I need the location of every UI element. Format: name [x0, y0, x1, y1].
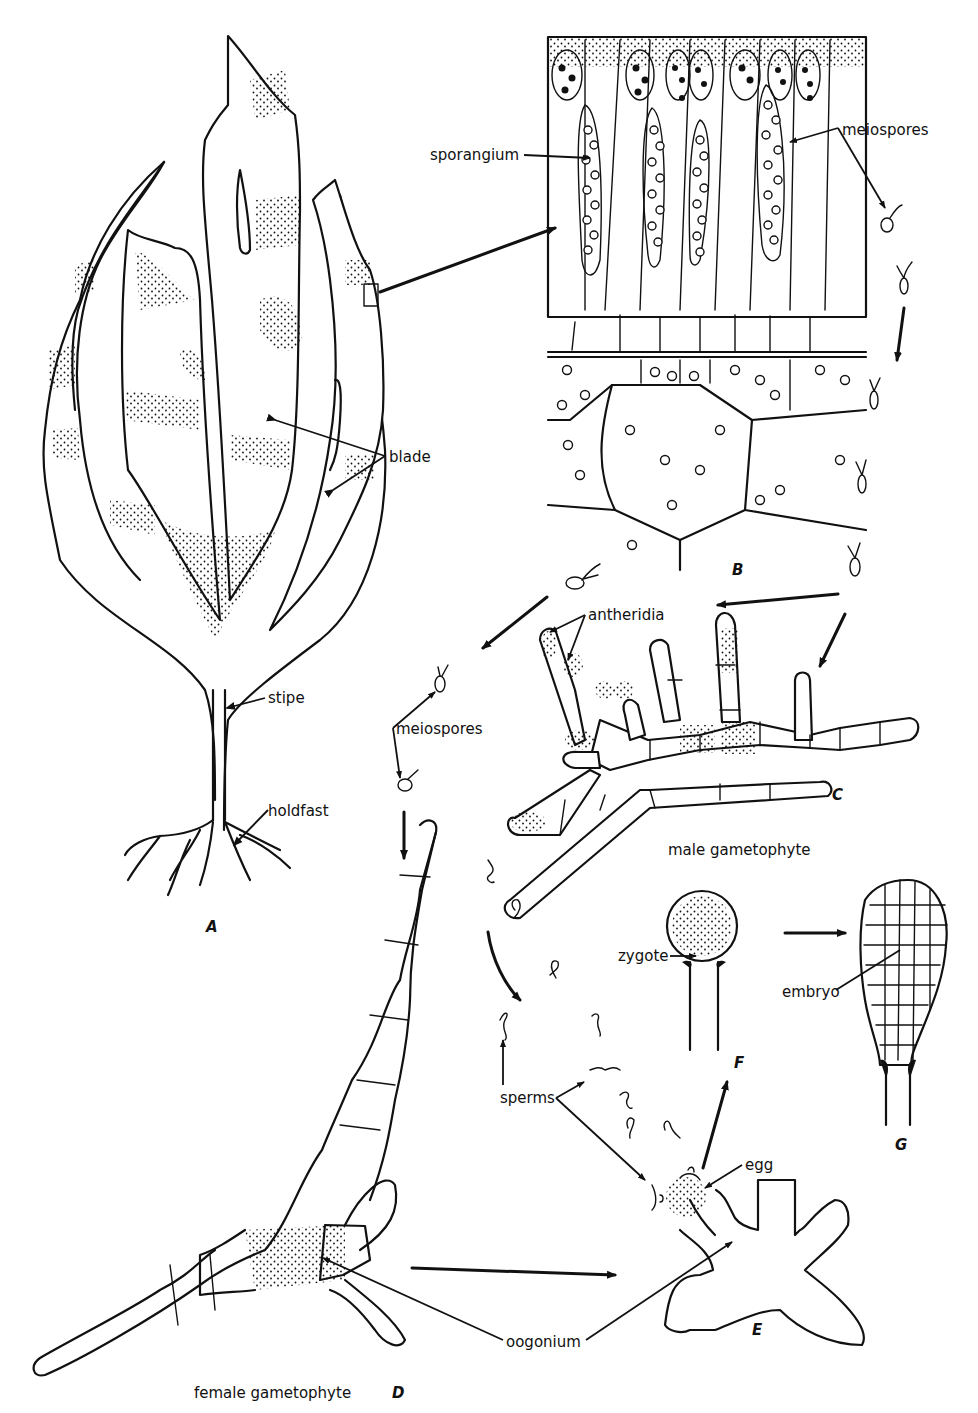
female-gametophyte-label: female gametophyte	[194, 1384, 351, 1402]
oogonium-panel-e: E	[652, 1167, 864, 1345]
stipe-label: stipe	[268, 689, 305, 707]
kelp-life-cycle-diagram: blade stipe holdfast A	[0, 0, 978, 1413]
arrow-sperm-drift	[488, 932, 520, 1000]
labels-meiospores-mid: meiospores	[393, 692, 483, 858]
arrow-d-to-e	[412, 1268, 615, 1275]
male-gametophyte-label: male gametophyte	[668, 841, 811, 859]
arrow-to-antheridia	[718, 594, 838, 605]
sporophyte-panel-a	[43, 36, 385, 895]
meiospores-label-top: meiospores	[842, 121, 929, 139]
meiospores-label-mid: meiospores	[396, 720, 483, 738]
arrow-a-to-b	[380, 228, 555, 292]
holdfast-label: holdfast	[268, 802, 329, 820]
egg-label: egg	[745, 1156, 773, 1174]
arrow-to-male	[820, 614, 845, 666]
sperms-label: sperms	[500, 1089, 555, 1107]
labels-panel-g: embryo	[782, 950, 900, 1001]
antheridia-label: antheridia	[588, 606, 665, 624]
female-gametophyte-panel-d: D	[34, 821, 437, 1402]
oogonium-label: oogonium	[506, 1333, 581, 1351]
panel-g-letter: G	[895, 1136, 907, 1154]
panel-c-letter: C	[832, 786, 843, 804]
male-gametophyte-panel-c: C	[505, 613, 918, 918]
labels-panel-d: female gametophyte	[194, 1384, 351, 1402]
panel-d-letter: D	[392, 1384, 404, 1402]
sporangium-panel-b: B	[548, 37, 866, 579]
sporangium-label: sporangium	[430, 146, 519, 164]
labels-sperms: sperms	[500, 1040, 645, 1180]
panel-b-letter: B	[732, 561, 743, 579]
embryo-label: embryo	[782, 983, 840, 1001]
panel-f-letter: F	[734, 1054, 745, 1072]
arrow-spore-left	[483, 597, 547, 648]
zygote-panel-f: F	[667, 891, 745, 1072]
meiospores-right-chain	[848, 205, 912, 576]
embryo-panel-g: G	[860, 880, 947, 1154]
arrow-e-to-f	[703, 1082, 727, 1168]
labels-panel-b: sporangium meiospores	[430, 121, 929, 208]
zygote-label: zygote	[618, 947, 669, 965]
panel-a-letter: A	[205, 918, 218, 936]
panel-e-letter: E	[752, 1321, 763, 1339]
blade-label: blade	[389, 448, 431, 466]
